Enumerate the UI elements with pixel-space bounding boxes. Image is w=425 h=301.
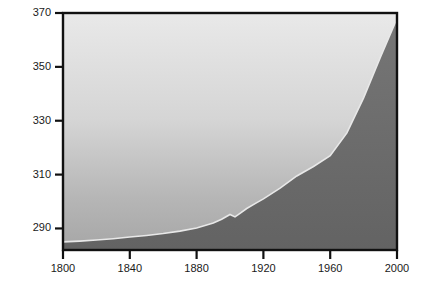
x-tick-label-1800: 1800 (38, 262, 88, 274)
y-tick-label-370: 370 (33, 6, 51, 18)
x-tick-label-2000: 2000 (372, 262, 422, 274)
x-tick-label-1840: 1840 (105, 262, 155, 274)
y-tick-label-350: 350 (33, 60, 51, 72)
y-tick-label-310: 310 (33, 168, 51, 180)
x-tick-label-1880: 1880 (172, 262, 222, 274)
x-axis-ticks (63, 250, 397, 259)
y-tick-label-330: 330 (33, 114, 51, 126)
co2-area-chart (0, 0, 425, 301)
x-tick-label-1960: 1960 (305, 262, 355, 274)
y-tick-label-290: 290 (33, 221, 51, 233)
x-tick-label-1920: 1920 (238, 262, 288, 274)
